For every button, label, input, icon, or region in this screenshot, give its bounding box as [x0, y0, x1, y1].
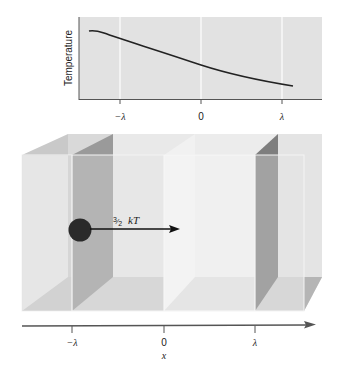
tick-label-neg-lambda-bottom: −λ [66, 337, 78, 348]
tick-label-neg-lambda: −λ [114, 111, 126, 122]
tick-label-lambda-bottom: λ [252, 337, 258, 348]
diagram-canvas: −λ 0 λ Temperature [0, 0, 342, 373]
particle [69, 219, 92, 242]
tick-label-lambda: λ [279, 111, 285, 122]
y-axis-label: Temperature [63, 29, 74, 86]
box-diagram: 3⁄2 kT [22, 134, 322, 311]
axis-line [22, 325, 306, 326]
tick-label-zero: 0 [198, 111, 204, 122]
front-left-section [22, 155, 72, 311]
energy-label: kT [128, 214, 140, 226]
temperature-chart: −λ 0 λ Temperature [63, 17, 322, 122]
x-axis-bottom: −λ 0 λ x [22, 321, 316, 361]
front-center-section [164, 155, 255, 311]
axis-label-x: x [161, 350, 167, 361]
tick-label-zero-bottom: 0 [161, 337, 167, 348]
